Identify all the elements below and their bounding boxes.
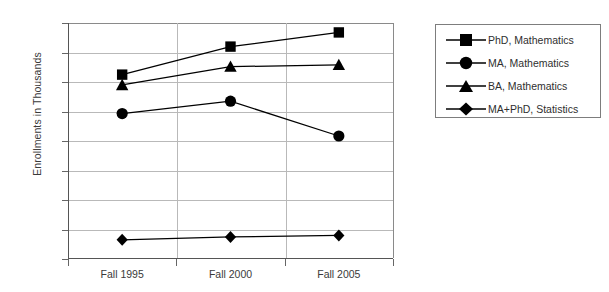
gridline-300 xyxy=(69,171,393,172)
plot-area xyxy=(68,23,393,259)
gridline-700 xyxy=(69,53,393,54)
legend-marker-circle xyxy=(444,56,488,70)
gridline-200 xyxy=(69,200,393,201)
gridline-400 xyxy=(69,141,393,142)
gridline-category-2 xyxy=(286,23,287,258)
legend-item-ma-phd-statistics[interactable]: MA+PhD, Statistics xyxy=(436,98,600,120)
gridline-500 xyxy=(69,112,393,113)
legend-label-ma-phd-statistics: MA+PhD, Statistics xyxy=(488,103,578,115)
chart-legend: PhD, Mathematics MA, Mathematics BA, Mat… xyxy=(435,24,601,118)
x-tick-label-fall-2005: Fall 2005 xyxy=(284,268,394,280)
plot-right-edge xyxy=(393,23,394,258)
y-axis-title: Enrollments in Thousands xyxy=(31,29,43,199)
gridline-800 xyxy=(69,23,393,24)
chart-figure: Enrollments in Thousands 800 700 600 500… xyxy=(0,0,609,292)
legend-item-ma-mathematics[interactable]: MA, Mathematics xyxy=(436,52,600,74)
legend-label-ma-mathematics: MA, Mathematics xyxy=(488,57,569,69)
gridline-category-1 xyxy=(177,23,178,258)
legend-marker-square xyxy=(444,33,488,47)
legend-marker-triangle xyxy=(444,79,488,93)
x-tick-label-fall-1995: Fall 1995 xyxy=(67,268,177,280)
x-tick-label-fall-2000: Fall 2000 xyxy=(176,268,286,280)
legend-label-phd-mathematics: PhD, Mathematics xyxy=(488,34,574,46)
gridline-600 xyxy=(69,82,393,83)
legend-item-ba-mathematics[interactable]: BA, Mathematics xyxy=(436,75,600,97)
gridline-100 xyxy=(69,230,393,231)
legend-item-phd-mathematics[interactable]: PhD, Mathematics xyxy=(436,29,600,51)
legend-marker-diamond xyxy=(444,102,488,116)
legend-label-ba-mathematics: BA, Mathematics xyxy=(488,80,567,92)
